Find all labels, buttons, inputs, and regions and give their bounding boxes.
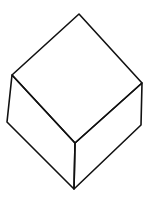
- cube-drawing: [0, 0, 156, 201]
- right-face: [74, 83, 142, 189]
- left-face: [7, 75, 75, 189]
- top-face: [12, 14, 142, 143]
